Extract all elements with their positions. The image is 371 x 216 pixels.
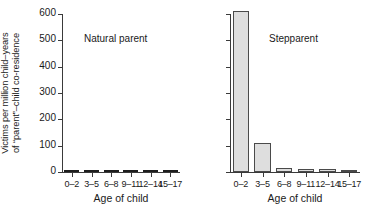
x-axis-tick	[349, 173, 350, 177]
x-axis-tick	[306, 173, 307, 177]
y-axis-tick	[58, 93, 62, 94]
y-axis-title-line2: of “parent”–child co-residence	[11, 0, 22, 186]
bar-stepparent-12–14	[319, 169, 335, 172]
x-axis-title-left: Age of child	[62, 192, 180, 204]
y-axis-tick	[226, 67, 230, 68]
y-axis-tick	[58, 67, 62, 68]
x-axis-tick	[111, 173, 112, 177]
y-axis-tick	[58, 119, 62, 120]
y-axis-tick	[58, 172, 62, 173]
y-axis-tick	[58, 14, 62, 15]
bar-natural-parent-0–2	[64, 170, 79, 172]
y-axis-line	[62, 14, 63, 173]
y-axis-title-line1: Victims per million child–years	[0, 32, 10, 153]
bar-stepparent-6–8	[276, 168, 292, 172]
x-axis-tick-label: 9–11	[122, 179, 141, 189]
x-axis-tick-label: 6–8	[277, 179, 291, 189]
bar-natural-parent-6–8	[104, 170, 119, 172]
y-axis-tick-label: 600	[26, 7, 56, 18]
x-axis-tick	[72, 173, 73, 177]
bar-natural-parent-9–11	[123, 170, 138, 172]
panel-title-natural: Natural parent	[84, 33, 147, 44]
x-axis-tick	[241, 173, 242, 177]
x-axis-tick-label: 0–2	[234, 179, 248, 189]
y-axis-tick	[226, 14, 230, 15]
chart-figure: Victims per million child–years of “pare…	[0, 0, 371, 216]
x-axis-tick	[92, 173, 93, 177]
y-axis-tick	[226, 119, 230, 120]
x-axis-tick-label: 0–2	[65, 179, 79, 189]
x-axis-title-right: Age of child	[230, 192, 360, 204]
y-axis-tick-label: 100	[26, 139, 56, 150]
y-axis-tick	[58, 146, 62, 147]
x-axis-tick-label: 12–14	[315, 179, 339, 189]
y-axis-tick-label: 400	[26, 60, 56, 71]
bar-stepparent-0–2	[233, 11, 249, 172]
bar-stepparent-9–11	[298, 169, 314, 172]
panel-title-stepparent: Stepparent	[269, 33, 318, 44]
x-axis-tick-label: 6–8	[104, 179, 118, 189]
y-axis-tick-label: 300	[26, 86, 56, 97]
x-axis-tick-label: 9–11	[297, 179, 316, 189]
y-axis-tick-label: 200	[26, 112, 56, 123]
x-axis-tick-label: 15–17	[337, 179, 361, 189]
x-axis-tick	[131, 173, 132, 177]
y-axis-tick-label: 0	[26, 165, 56, 176]
bar-natural-parent-3–5	[84, 170, 99, 172]
x-axis-line	[230, 172, 360, 173]
bar-stepparent-15–17	[341, 170, 357, 172]
y-axis-tick	[58, 40, 62, 41]
x-axis-tick	[170, 173, 171, 177]
panel-natural-parent: Victims per million child–years of “pare…	[0, 0, 190, 216]
y-axis-line	[230, 14, 231, 173]
y-axis-tick	[226, 146, 230, 147]
x-axis-tick-label: 15–17	[158, 179, 182, 189]
bar-natural-parent-15–17	[163, 170, 178, 172]
x-axis-tick-label: 3–5	[255, 179, 269, 189]
x-axis-tick	[328, 173, 329, 177]
panel-stepparent: 0–23–56–89–1112–1415–17 Stepparent Age o…	[190, 0, 371, 216]
x-axis-line	[62, 172, 180, 173]
x-axis-tick	[284, 173, 285, 177]
bar-stepparent-3–5	[254, 143, 270, 172]
y-axis-tick	[226, 172, 230, 173]
x-axis-tick	[263, 173, 264, 177]
y-axis-tick-label: 500	[26, 33, 56, 44]
x-axis-tick	[151, 173, 152, 177]
x-axis-tick-label: 3–5	[84, 179, 98, 189]
y-axis-tick	[226, 93, 230, 94]
bar-natural-parent-12–14	[143, 170, 158, 172]
y-axis-tick	[226, 40, 230, 41]
